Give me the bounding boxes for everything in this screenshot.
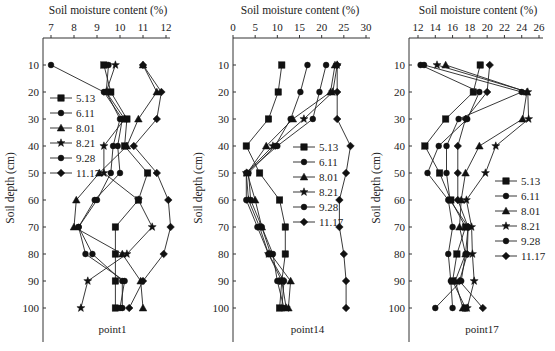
x-tick-label: 22 [499,21,510,33]
x-tick-label: 15 [294,21,306,33]
legend-label: 5.13 [76,92,96,104]
x-axis-title: Soil moisture content (%) [49,4,168,17]
x-tick-label: 20 [316,21,328,33]
legend-label: 8.01 [319,171,338,183]
figure: Soil moisture content (%)789101112102030… [0,0,555,351]
y-axis-title: Soil depth (cm) [4,152,17,224]
x-tick-label: 0 [230,21,236,33]
legend-label: 9.28 [521,235,541,247]
y-tick-label: 90 [28,275,40,287]
panel-point1: Soil moisture content (%)789101112102030… [4,4,174,342]
y-tick-label: 30 [28,113,40,125]
legend-label: 6.11 [319,156,338,168]
panel-label: point17 [465,323,499,335]
x-tick-label: 8 [71,21,77,33]
x-tick-label: 20 [482,21,494,33]
y-tick-label: 100 [213,302,230,314]
panel-label: point1 [98,323,126,335]
y-tick-label: 70 [28,221,40,233]
y-tick-label: 70 [394,221,406,233]
legend-label: 8.01 [521,205,540,217]
y-tick-label: 40 [218,140,230,152]
series-5.13 [422,62,484,311]
y-tick-label: 20 [394,86,406,98]
y-axis-title: Soil depth (cm) [192,152,205,224]
y-tick-label: 10 [218,59,230,71]
legend-label: 8.21 [319,186,338,198]
legend-label: 8.01 [76,122,95,134]
y-tick-label: 50 [218,167,230,179]
legend-label: 9.28 [76,152,96,164]
series-5.13 [101,62,151,311]
x-tick-label: 11 [138,21,149,33]
legend-label: 6.11 [76,107,95,119]
y-tick-label: 70 [218,221,230,233]
legend-label: 5.13 [319,141,339,153]
y-tick-label: 40 [394,140,406,152]
legend-label: 5.13 [521,175,541,187]
x-tick-label: 18 [464,21,476,33]
legend: 5.136.118.018.219.2811.17 [50,92,101,179]
x-tick-label: 5 [252,21,258,33]
x-tick-label: 10 [115,21,127,33]
y-tick-label: 60 [28,194,40,206]
y-tick-label: 20 [218,86,230,98]
x-tick-label: 25 [338,21,350,33]
x-tick-label: 12 [413,21,424,33]
x-tick-label: 9 [94,21,100,33]
y-tick-label: 10 [28,59,40,71]
y-tick-label: 100 [23,302,40,314]
y-tick-label: 100 [389,302,406,314]
x-axis-title: Soil moisture content (%) [241,4,360,17]
soil-moisture-chart: Soil moisture content (%)789101112102030… [0,0,555,351]
y-tick-label: 80 [218,248,230,260]
panel-point14: Soil moisture content (%)051015202530102… [192,4,372,342]
y-tick-label: 50 [28,167,40,179]
y-tick-label: 30 [394,113,406,125]
series-11.17 [125,61,174,312]
y-tick-label: 60 [394,194,406,206]
legend-label: 8.21 [76,137,95,149]
series-6.11 [418,62,483,311]
y-tick-label: 40 [28,140,40,152]
x-tick-label: 16 [447,21,459,33]
y-tick-label: 20 [28,86,40,98]
y-tick-label: 90 [394,275,406,287]
legend: 5.136.118.018.219.2811.17 [495,175,546,262]
y-tick-label: 50 [394,167,406,179]
legend-label: 11.17 [521,250,546,262]
y-axis-title: Soil depth (cm) [370,152,383,224]
y-tick-label: 10 [394,59,406,71]
y-tick-label: 90 [218,275,230,287]
panel-point17: Soil moisture content (%)121416182022242… [370,4,546,342]
legend: 5.136.118.018.219.2811.17 [293,141,344,228]
y-tick-label: 80 [28,248,40,260]
series-9.28 [421,62,524,311]
legend-label: 11.17 [319,216,344,228]
legend-label: 11.17 [76,167,101,179]
x-tick-label: 14 [430,21,442,33]
x-axis-title: Soil moisture content (%) [419,4,538,17]
series-8.01 [442,61,531,311]
legend-label: 9.28 [319,201,339,213]
legend-label: 8.21 [521,220,540,232]
y-tick-label: 80 [394,248,406,260]
x-tick-label: 30 [361,21,373,33]
panel-label: point14 [291,323,325,335]
x-tick-label: 10 [272,21,284,33]
y-tick-label: 30 [218,113,230,125]
x-tick-label: 7 [48,21,54,33]
x-tick-label: 24 [516,21,528,33]
x-tick-label: 12 [161,21,172,33]
legend-label: 6.11 [521,190,540,202]
series-9.28 [243,62,329,311]
x-tick-label: 26 [534,21,546,33]
y-tick-label: 60 [218,194,230,206]
